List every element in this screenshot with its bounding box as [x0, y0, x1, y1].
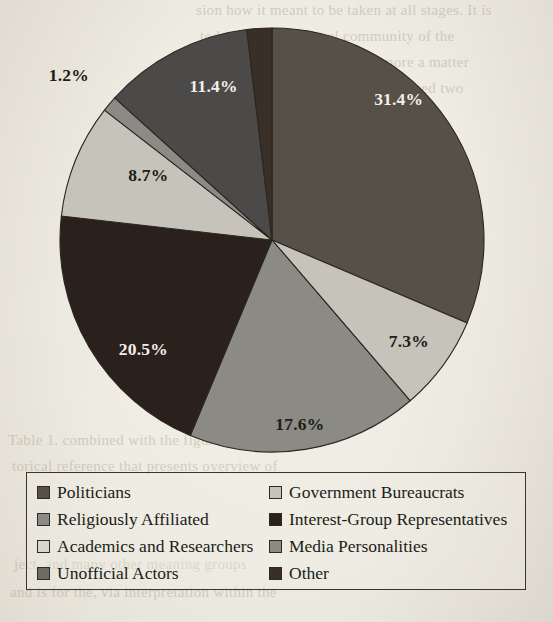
- legend-item[interactable]: Unofficial Actors: [37, 560, 269, 587]
- legend-item[interactable]: Media Personalities: [269, 533, 537, 560]
- pie-chart-svg: 31.4%7.3%17.6%20.5%8.7%1.2%11.4%1.9%: [0, 0, 553, 470]
- legend-item-label: Academics and Researchers: [57, 538, 253, 556]
- legend-item[interactable]: Politicians: [37, 479, 269, 506]
- legend-item-label: Media Personalities: [289, 538, 428, 556]
- pie-chart-area: 31.4%7.3%17.6%20.5%8.7%1.2%11.4%1.9%: [0, 0, 553, 470]
- legend-color-swatch: [269, 567, 282, 580]
- pie-slice-value-label: 8.7%: [128, 165, 168, 185]
- pie-slice-value-label: 11.4%: [190, 76, 238, 96]
- legend-item[interactable]: Other: [269, 560, 537, 587]
- legend-color-swatch: [37, 486, 50, 499]
- legend-item-label: Religiously Affiliated: [57, 511, 209, 529]
- legend-item-label: Unofficial Actors: [57, 565, 179, 583]
- legend-color-swatch: [37, 513, 50, 526]
- legend-item[interactable]: Government Bureaucrats: [269, 479, 537, 506]
- legend-grid: PoliticiansGovernment BureaucratsReligio…: [27, 473, 525, 587]
- legend-item-label: Government Bureaucrats: [289, 484, 464, 502]
- pie-slice-value-label: 17.6%: [275, 414, 324, 434]
- legend-color-swatch: [269, 540, 282, 553]
- legend-item-label: Other: [289, 565, 329, 583]
- legend-color-swatch: [269, 513, 282, 526]
- legend-item[interactable]: Religiously Affiliated: [37, 506, 269, 533]
- legend-color-swatch: [37, 567, 50, 580]
- legend-item-label: Politicians: [57, 484, 131, 502]
- pie-slice-value-label: 20.5%: [119, 339, 168, 359]
- pie-slice-value-label: 7.3%: [389, 331, 429, 351]
- legend-item-label: Interest-Group Representatives: [289, 511, 507, 529]
- chart-legend: PoliticiansGovernment BureaucratsReligio…: [26, 472, 526, 590]
- legend-color-swatch: [269, 486, 282, 499]
- legend-item[interactable]: Academics and Researchers: [37, 533, 269, 560]
- pie-chart-figure: 31.4%7.3%17.6%20.5%8.7%1.2%11.4%1.9% Pol…: [0, 0, 553, 622]
- pie-slice-value-label: 1.2%: [49, 65, 89, 85]
- legend-color-swatch: [37, 540, 50, 553]
- legend-item[interactable]: Interest-Group Representatives: [269, 506, 537, 533]
- pie-slice-value-label: 31.4%: [374, 89, 423, 109]
